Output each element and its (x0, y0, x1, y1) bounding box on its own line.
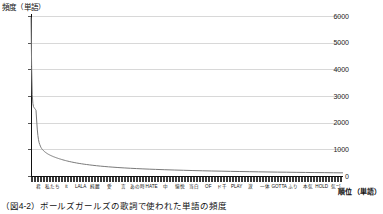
x-tick (214, 177, 216, 182)
x-tick (328, 177, 330, 182)
x-tick (94, 177, 96, 182)
x-tick (265, 177, 267, 182)
x-tick (160, 177, 162, 182)
x-tick (331, 177, 333, 182)
x-tick (235, 177, 237, 182)
x-tick (334, 177, 336, 182)
x-category-label: it (65, 183, 67, 191)
x-tick (205, 177, 207, 182)
figure-caption: （図4-2）ボールズガールズの歌詞で使われた単語の頻度 (1, 199, 227, 211)
x-tick (55, 177, 57, 182)
x-tick (121, 177, 123, 182)
y-tick-label: 4000 (333, 66, 349, 73)
x-tick (100, 177, 102, 182)
x-tick (271, 177, 273, 182)
x-tick (97, 177, 99, 182)
y-tick-label: 0 (345, 173, 349, 180)
x-tick (172, 177, 174, 182)
x-tick (52, 177, 54, 182)
x-tick (313, 177, 315, 182)
x-tick (148, 177, 150, 182)
x-tick (325, 177, 327, 182)
x-tick (88, 177, 90, 182)
x-tick (31, 177, 33, 182)
x-tick (181, 177, 183, 182)
x-tick (256, 177, 258, 182)
x-tick (298, 177, 300, 182)
x-tick (277, 177, 279, 182)
x-tick (280, 177, 282, 182)
x-tick (241, 177, 243, 182)
x-tick (151, 177, 153, 182)
x-tick (220, 177, 222, 182)
x-category-label: GOTTA (271, 183, 286, 191)
x-tick (124, 177, 126, 182)
x-category-label: 当白 (189, 183, 199, 191)
x-category-label: 本気 (303, 183, 313, 191)
x-tick (43, 177, 45, 182)
x-axis-title: 順位（単語） (338, 186, 381, 196)
x-tick (247, 177, 249, 182)
x-tick (244, 177, 246, 182)
x-category-label: 私たち (45, 183, 60, 191)
x-tick (85, 177, 87, 182)
x-tick (61, 177, 63, 182)
x-tick-band (31, 177, 343, 182)
x-tick (337, 177, 339, 182)
x-tick (211, 177, 213, 182)
y-axis-title: 頻度（単語） (2, 1, 45, 12)
x-tick (142, 177, 144, 182)
x-tick (307, 177, 309, 182)
x-tick (232, 177, 234, 182)
x-tick (310, 177, 312, 182)
x-tick (292, 177, 294, 182)
x-category-label: PLAY (231, 183, 242, 191)
x-tick (64, 177, 66, 182)
x-tick (199, 177, 201, 182)
x-tick (67, 177, 69, 182)
x-tick (301, 177, 303, 182)
x-tick (127, 177, 129, 182)
x-tick (73, 177, 75, 182)
frequency-curve (31, 16, 343, 177)
x-tick (103, 177, 105, 182)
x-tick (118, 177, 120, 182)
x-tick (154, 177, 156, 182)
x-category-label: あの時 (130, 183, 145, 191)
x-tick (262, 177, 264, 182)
x-tick (196, 177, 198, 182)
x-category-label: ド千 (217, 183, 227, 191)
x-tick (226, 177, 228, 182)
x-tick (157, 177, 159, 182)
chart-figure: 頻度（単語） 君私たちitLALA純麗愛言あの時HATE中愉悦当白OFド千PLA… (0, 0, 383, 214)
x-tick (133, 177, 135, 182)
x-axis-labels: 君私たちitLALA純麗愛言あの時HATE中愉悦当白OFド千PLAY涙一体GOT… (31, 183, 343, 195)
x-category-label: 愉悦 (175, 183, 185, 191)
x-tick (208, 177, 210, 182)
x-tick (82, 177, 84, 182)
x-tick (109, 177, 111, 182)
y-tick-label: 5000 (333, 39, 349, 46)
x-tick (238, 177, 240, 182)
x-tick (202, 177, 204, 182)
x-tick (187, 177, 189, 182)
x-tick (274, 177, 276, 182)
x-tick (166, 177, 168, 182)
x-category-label: 言 (121, 183, 126, 191)
y-tick-label: 6000 (333, 13, 349, 20)
x-category-label: 中 (163, 183, 168, 191)
x-tick (40, 177, 42, 182)
x-category-label: 一体 (260, 183, 270, 191)
x-tick (76, 177, 78, 182)
x-tick (70, 177, 72, 182)
x-category-label: ふり (288, 183, 298, 191)
x-tick (259, 177, 261, 182)
x-tick (139, 177, 141, 182)
x-tick (163, 177, 165, 182)
x-category-label: OF (205, 183, 211, 191)
x-tick (130, 177, 132, 182)
x-tick (49, 177, 51, 182)
x-tick (58, 177, 60, 182)
x-tick (223, 177, 225, 182)
x-tick (253, 177, 255, 182)
